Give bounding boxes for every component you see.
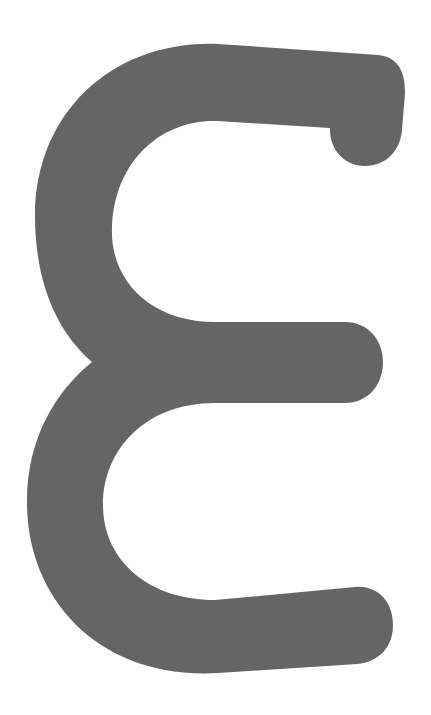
- epsilon-glyph-icon: [0, 0, 431, 715]
